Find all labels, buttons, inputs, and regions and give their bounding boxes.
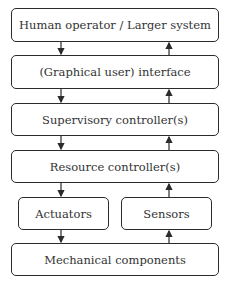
- edge-arrows: [0, 0, 230, 288]
